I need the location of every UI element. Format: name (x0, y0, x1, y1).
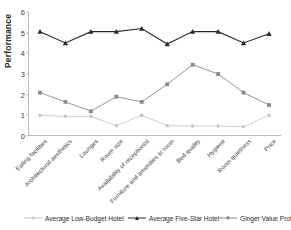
chart-legend: Average Low-Budget Hotel Average Five-St… (0, 210, 291, 226)
data-point-marker (242, 125, 246, 129)
x-tick-label: Price (263, 138, 277, 152)
data-point-marker (267, 103, 271, 107)
data-point-marker (165, 124, 169, 128)
data-point-marker (63, 40, 68, 45)
data-point-marker (216, 72, 220, 76)
data-point-marker (266, 31, 271, 36)
data-point-marker (38, 114, 42, 118)
legend-marker-circle-icon (24, 214, 42, 222)
data-point-marker (64, 100, 68, 104)
x-tick-label: Availability of receptionist (96, 138, 150, 192)
data-point-marker (267, 114, 271, 118)
series-line (40, 115, 269, 126)
series-layer (28, 12, 281, 136)
legend-marker-triangle-icon (128, 214, 146, 222)
x-tick-label: Bed quality (175, 138, 201, 164)
data-point-marker (216, 124, 220, 128)
data-point-marker (242, 91, 246, 95)
legend-marker-square-icon (219, 214, 237, 222)
data-point-marker (191, 63, 195, 67)
legend-label: Average Low-Budget Hotel (45, 215, 124, 222)
plot-area: 0123456 (28, 12, 281, 136)
data-point-marker (140, 100, 144, 104)
data-point-marker (89, 109, 93, 113)
series-ginger-value-profile (38, 63, 271, 113)
y-tick-label: 0 (21, 132, 25, 141)
data-point-marker (115, 124, 119, 128)
legend-item-ginger[interactable]: Ginger Value Profile (219, 214, 291, 222)
y-tick-label: 6 (21, 8, 25, 17)
data-point-marker (89, 115, 93, 119)
performance-line-chart: Performance 0123456 Eating facilitiesArc… (0, 0, 291, 230)
x-tick-label: Lounges (78, 138, 99, 159)
y-tick-label: 5 (21, 28, 25, 37)
series-average-low-budget-hotel (38, 114, 271, 129)
series-line (40, 29, 269, 44)
y-axis-title: Performance (3, 5, 13, 77)
series-average-five-star-hotel (37, 26, 271, 46)
legend-label: Average Five-Star Hotel (149, 215, 219, 222)
x-tick-label: Room size (100, 138, 125, 163)
legend-item-low-budget[interactable]: Average Low-Budget Hotel (24, 214, 124, 222)
series-line (40, 65, 269, 112)
x-tick-label: Architectural aesthetics (24, 138, 74, 188)
y-tick-label: 3 (21, 70, 25, 79)
y-tick-label: 1 (21, 111, 25, 120)
data-point-marker (140, 114, 144, 118)
legend-item-five-star[interactable]: Average Five-Star Hotel (128, 214, 219, 222)
y-tick-label: 2 (21, 90, 25, 99)
data-point-marker (191, 124, 195, 128)
data-point-marker (38, 91, 42, 95)
y-tick-label: 4 (21, 49, 25, 58)
data-point-marker (64, 115, 68, 119)
data-point-marker (165, 41, 170, 46)
data-point-marker (37, 29, 42, 34)
data-point-marker (165, 82, 169, 86)
x-tick-label: Hygiene (206, 138, 226, 158)
x-axis-labels: Eating facilitiesArchitectural aesthetic… (28, 136, 281, 212)
data-point-marker (114, 95, 118, 99)
legend-label: Ginger Value Profile (240, 215, 291, 222)
